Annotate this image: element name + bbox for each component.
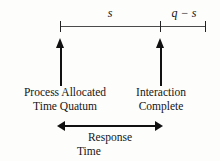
arrowhead-right-icon	[155, 121, 163, 131]
segment-label-q-minus-s: q − s	[163, 7, 205, 20]
timeline-axis	[60, 26, 206, 27]
response-time-span-arrow	[57, 121, 163, 131]
span-label-line2: Time	[60, 145, 160, 159]
span-label-response-time: Response Time	[60, 131, 160, 158]
arrow-shaft	[160, 44, 162, 86]
event-label-line1: Interaction	[136, 86, 186, 98]
event-label-line2: Complete	[114, 100, 208, 114]
event-label-line2: Time Quatum	[4, 100, 126, 114]
up-arrow-interaction-complete	[156, 38, 165, 86]
event-label-process-allocated: Process Allocated Time Quatum	[4, 86, 126, 113]
tick-quantum-end	[205, 21, 206, 32]
arrow-shaft	[63, 125, 157, 127]
event-label-interaction-complete: Interaction Complete	[114, 86, 208, 113]
up-arrow-quantum-start	[56, 38, 65, 86]
response-time-diagram: s q − s Process Allocated Time Quatum In…	[0, 0, 220, 161]
span-label-line1: Response	[88, 131, 132, 143]
event-label-line1: Process Allocated	[24, 86, 106, 98]
segment-label-s: s	[96, 7, 124, 20]
tick-interaction-complete	[160, 21, 161, 32]
tick-quantum-start	[60, 21, 61, 32]
arrow-shaft	[60, 44, 62, 86]
